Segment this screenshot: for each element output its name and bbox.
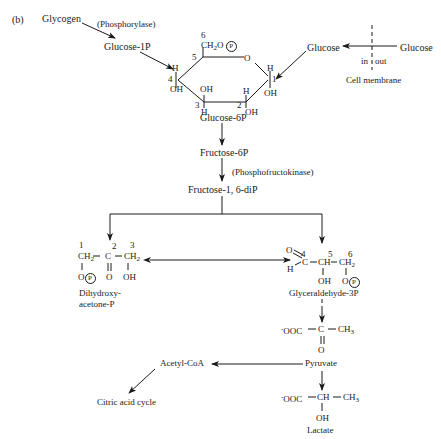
ring-c2-h: H (243, 86, 250, 97)
pyruvate-c: C (318, 324, 324, 335)
ring-c3-oh: OH (200, 84, 213, 95)
g3p-oh: OH (318, 276, 331, 287)
node-glucose-1p: Glucose-1P (104, 41, 151, 52)
node-fructose-1-6-dip: Fructose-1, 6-diP (188, 184, 257, 195)
ring-c1-number: 1 (272, 74, 277, 85)
arrow-glucose1p-to-ring (140, 52, 173, 69)
g3p-ch2: CH2 (339, 257, 355, 271)
lactate-ch3: CH3 (343, 392, 359, 406)
pyruvate-ch3: CH3 (338, 324, 354, 338)
enzyme-phosphorylase: (Phosphorylase) (97, 19, 156, 30)
node-dhap-line2: acetone-P (79, 299, 114, 310)
lactate-ch: CH (317, 392, 330, 403)
figure-label: (b) (12, 14, 24, 25)
ring-ch2o-p: CH2O P (201, 40, 237, 54)
node-citric-acid-cycle: Citric acid cycle (97, 397, 156, 408)
node-dhap-line1: Dihydroxy- (79, 288, 121, 299)
node-glycogen: Glycogen (42, 13, 81, 24)
ring-oxygen: O (244, 53, 251, 64)
dhap-ch2-1: CH2 (78, 251, 94, 265)
ring-c1-h: H (267, 63, 274, 74)
dhap-oh: OH (123, 272, 136, 283)
ring-c2-number: 2 (237, 100, 242, 111)
g3p-aldehyde-o: O (286, 245, 293, 256)
node-pyruvate: Pyruvate (305, 358, 337, 369)
label-in: in (361, 56, 368, 67)
ring-c4-h: H (172, 63, 179, 74)
arrow-glucose-to-ring (276, 51, 306, 79)
dhap-ch2-3: CH2 (124, 251, 140, 265)
label-out: out (375, 56, 387, 67)
dhap-o-p: OP (78, 272, 96, 284)
ring-c5-number: 5 (192, 52, 197, 63)
node-lactate: Lactate (307, 425, 333, 436)
node-glucose-in: Glucose (307, 42, 340, 53)
arrow-acetylcoa-to-citric (129, 369, 155, 393)
ring-c3-number: 3 (195, 100, 200, 111)
node-glucose-6p: Glucose-6P (200, 112, 247, 123)
g3p-c4: C (302, 257, 308, 268)
node-glyceraldehyde-3p: Glyceraldehyde-3P (289, 288, 358, 299)
lactate-oh: OH (316, 413, 329, 424)
node-glucose-out: Glucose (400, 42, 433, 53)
dhap-carbonyl-o: O (106, 272, 113, 283)
node-acetyl-coa: Acetyl-CoA (160, 358, 204, 369)
ring-c4-oh: OH (170, 84, 183, 95)
label-cell-membrane: Cell membrane (346, 75, 401, 86)
g3p-o-p: OP (342, 276, 360, 288)
g3p-aldehyde-h: H (287, 264, 294, 275)
enzyme-phosphofructokinase: (Phosphofructokinase) (232, 167, 313, 178)
dhap-c2-number: 2 (112, 241, 117, 252)
pyruvate-o: O (318, 345, 325, 356)
lactate-ooc: -OOC (281, 392, 302, 405)
node-fructose-6p: Fructose-6P (200, 147, 248, 158)
dhap-c3-number: 3 (130, 240, 135, 251)
dhap-c2: C (105, 251, 111, 262)
pyruvate-ooc: -OOC (281, 324, 302, 337)
ring-c1-oh: OH (264, 88, 277, 99)
g3p-ch: CH (318, 257, 331, 268)
dhap-c1-number: 1 (79, 240, 84, 251)
